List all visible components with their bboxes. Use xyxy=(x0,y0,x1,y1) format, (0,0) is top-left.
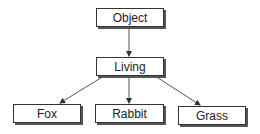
node-object: Object xyxy=(96,8,164,27)
node-grass: Grass xyxy=(178,106,246,125)
node-fox: Fox xyxy=(13,104,81,123)
edge-living-grass xyxy=(155,76,200,105)
node-living: Living xyxy=(96,57,164,76)
edge-living-fox xyxy=(60,76,104,103)
node-rabbit: Rabbit xyxy=(95,104,164,123)
